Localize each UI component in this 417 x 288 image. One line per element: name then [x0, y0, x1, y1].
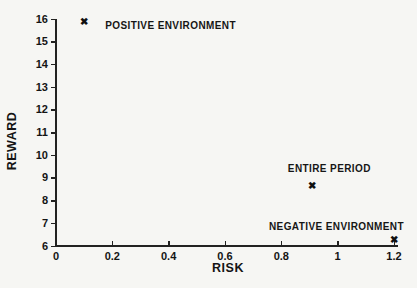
x-tick-mark	[281, 241, 283, 246]
y-tick-mark	[51, 200, 57, 202]
x-tick-label: 1	[321, 251, 355, 262]
data-point-marker: ✖	[390, 235, 398, 245]
data-point-marker: ✖	[308, 181, 316, 191]
x-tick-label: 1.2	[377, 251, 411, 262]
y-tick-mark	[51, 19, 57, 21]
y-tick-label: 12	[18, 104, 48, 115]
y-tick-mark	[51, 87, 57, 89]
y-tick-label: 6	[18, 241, 48, 252]
x-tick-mark	[337, 241, 339, 246]
y-tick-mark	[51, 155, 57, 157]
data-point-label: POSITIVE ENVIRONMENT	[105, 20, 236, 31]
x-tick-mark	[56, 241, 58, 246]
y-tick-mark	[51, 132, 57, 134]
y-tick-label: 13	[18, 82, 48, 93]
y-tick-mark	[51, 177, 57, 179]
x-tick-label: 0.2	[95, 251, 129, 262]
data-point-label: ENTIRE PERIOD	[288, 163, 371, 174]
x-tick-mark	[112, 241, 114, 246]
y-tick-label: 14	[18, 59, 48, 70]
y-tick-mark	[51, 41, 57, 43]
x-tick-mark	[168, 241, 170, 246]
y-tick-mark	[51, 64, 57, 66]
data-point-label: NEGATIVE ENVIRONMENT	[269, 221, 404, 232]
y-tick-mark	[51, 223, 57, 225]
x-tick-mark	[225, 241, 227, 246]
data-point-marker: ✖	[80, 17, 88, 27]
x-tick-label: 0	[39, 251, 73, 262]
y-tick-label: 11	[18, 127, 48, 138]
y-tick-label: 15	[18, 36, 48, 47]
scatter-plot-figure: REWARD 67891011121314151600.20.40.60.811…	[0, 0, 417, 288]
y-tick-label: 16	[18, 14, 48, 25]
y-tick-label: 7	[18, 218, 48, 229]
y-tick-mark	[51, 109, 57, 111]
x-axis-title: RISK	[168, 261, 288, 275]
y-tick-label: 10	[18, 150, 48, 161]
y-tick-label: 8	[18, 195, 48, 206]
y-tick-label: 9	[18, 172, 48, 183]
y-axis-title: REWARD	[5, 101, 19, 181]
x-axis-line	[55, 245, 398, 247]
